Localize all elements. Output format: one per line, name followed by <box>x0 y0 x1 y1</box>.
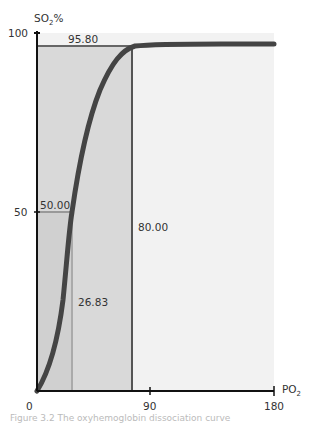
x-tick-label-90: 90 <box>143 400 156 412</box>
figure-caption: Figure 3.2 The oxyhemoglobin dissociatio… <box>10 413 230 423</box>
y-tick-label-100: 100 <box>8 27 28 39</box>
chart-canvas <box>0 0 309 425</box>
annotation-2683: 26.83 <box>78 296 108 308</box>
y-tick-label-50: 50 <box>14 206 27 218</box>
annotation-8000: 80.00 <box>138 221 168 233</box>
x-tick-label-0: 0 <box>26 400 33 412</box>
annotation-5000: 50.00 <box>40 199 70 211</box>
x-axis-label: PO2 <box>282 383 301 398</box>
y-axis-label: SO2% <box>34 12 63 27</box>
x-tick-label-180: 180 <box>264 400 284 412</box>
annotation-9580: 95.80 <box>68 33 98 45</box>
